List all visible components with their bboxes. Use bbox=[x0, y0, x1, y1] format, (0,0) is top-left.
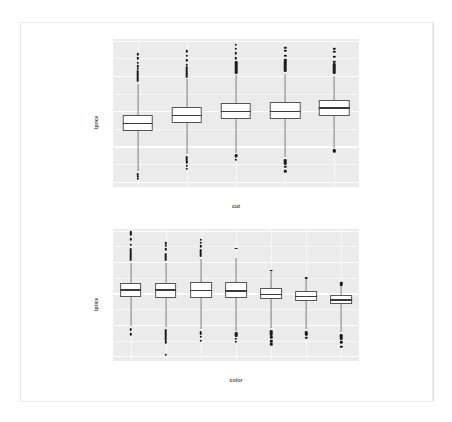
whisker-upper bbox=[285, 74, 286, 102]
scanned-page: 210-1-2FairGoodVery GoodPremiumIdeal lpr… bbox=[20, 22, 433, 401]
median-line bbox=[120, 289, 142, 291]
y-axis-title-cut: lprice bbox=[93, 116, 99, 129]
outlier-cluster bbox=[164, 253, 167, 261]
outlier-cluster bbox=[200, 249, 203, 257]
outlier-cluster bbox=[340, 334, 343, 340]
boxplot-group bbox=[289, 229, 324, 361]
whisker-lower bbox=[236, 119, 237, 153]
outlier-cluster bbox=[305, 277, 308, 279]
y-axis-title-color: lprice bbox=[93, 298, 99, 311]
boxplot-group bbox=[261, 39, 310, 187]
median-line bbox=[331, 299, 353, 301]
median-line bbox=[270, 111, 301, 113]
outlier-cluster bbox=[235, 248, 238, 250]
boxplot-group bbox=[183, 229, 218, 361]
outlier-cluster bbox=[235, 332, 238, 336]
outlier-cluster bbox=[164, 329, 167, 340]
whisker-lower bbox=[137, 131, 138, 171]
x-axis-title-color: color bbox=[113, 377, 359, 383]
boxplot-group bbox=[218, 229, 253, 361]
whisker-lower bbox=[130, 297, 131, 326]
outlier-cluster bbox=[200, 331, 203, 336]
outlier-cluster bbox=[284, 61, 287, 72]
median-line bbox=[295, 296, 317, 298]
outlier-cluster bbox=[333, 63, 336, 75]
whisker-upper bbox=[271, 271, 272, 288]
whisker-upper bbox=[200, 259, 201, 282]
whisker-lower bbox=[306, 301, 307, 329]
whisker-lower bbox=[236, 298, 237, 330]
whisker-lower bbox=[334, 116, 335, 148]
whisker-lower bbox=[165, 298, 166, 328]
whisker-lower bbox=[341, 304, 342, 332]
plot-panel-color: 210-1-2DEFGHIJ bbox=[113, 229, 359, 361]
median-line bbox=[319, 107, 350, 109]
boxplot-group bbox=[113, 39, 162, 187]
outlier-cluster bbox=[340, 284, 343, 286]
whisker-upper bbox=[137, 84, 138, 115]
boxplot-group bbox=[148, 229, 183, 361]
x-axis-title-cut: cut bbox=[113, 203, 359, 209]
outlier-cluster bbox=[129, 248, 132, 261]
median-line bbox=[155, 289, 177, 291]
whisker-upper bbox=[236, 75, 237, 102]
outlier-cluster bbox=[136, 70, 139, 83]
whisker-upper bbox=[306, 278, 307, 291]
whisker-upper bbox=[236, 258, 237, 282]
whisker-upper bbox=[334, 76, 335, 100]
figure-boxplot-color: 210-1-2DEFGHIJ lprice color bbox=[21, 221, 433, 401]
plot-panel-cut: 210-1-2FairGoodVery GoodPremiumIdeal bbox=[113, 39, 359, 187]
outlier-cluster bbox=[129, 328, 132, 331]
whisker-upper bbox=[341, 286, 342, 295]
median-line bbox=[122, 123, 153, 125]
outlier-cluster bbox=[284, 159, 287, 164]
whisker-lower bbox=[271, 299, 272, 328]
median-line bbox=[221, 111, 252, 113]
whisker-upper bbox=[130, 263, 131, 283]
whisker-lower bbox=[186, 123, 187, 155]
whisker-lower bbox=[200, 298, 201, 329]
median-line bbox=[190, 290, 212, 292]
outlier-cluster bbox=[235, 61, 238, 74]
median-line bbox=[260, 294, 282, 296]
boxplot-group bbox=[162, 39, 211, 187]
outlier-cluster bbox=[270, 270, 273, 272]
boxplot-group bbox=[310, 39, 359, 187]
outlier-cluster bbox=[185, 66, 188, 78]
boxplot-group bbox=[254, 229, 289, 361]
whisker-upper bbox=[165, 263, 166, 283]
boxplot-group bbox=[211, 39, 260, 187]
median-line bbox=[172, 115, 203, 117]
whisker-lower bbox=[285, 119, 286, 157]
figure-boxplot-cut: 210-1-2FairGoodVery GoodPremiumIdeal lpr… bbox=[21, 31, 433, 211]
boxplot-group bbox=[324, 229, 359, 361]
median-line bbox=[225, 290, 247, 292]
whisker-upper bbox=[186, 79, 187, 107]
boxplot-group bbox=[113, 229, 148, 361]
